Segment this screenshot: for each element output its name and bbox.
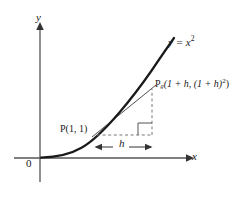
point-p-label: P(1, 1)	[60, 124, 87, 134]
curve-equation-label: y = x2	[168, 35, 195, 48]
point-q-args-a: (1 + h, (1 + h)	[164, 78, 223, 89]
figure-canvas: y x 0 y = x2 P(1, 1) Pg(1 + h, (1 + h)2)…	[0, 0, 237, 203]
curve-equation-text: y = x	[168, 36, 191, 48]
secant-line	[92, 85, 156, 137]
point-q-args-b: )	[226, 78, 229, 89]
diagram-svg	[0, 0, 237, 203]
y-axis-arrowhead	[36, 22, 44, 30]
point-q-label: Pg(1 + h, (1 + h)2)	[155, 78, 229, 90]
parabola-curve	[41, 38, 174, 158]
delta-h-label: h	[119, 138, 125, 149]
origin-label: 0	[26, 158, 32, 169]
y-axis-label: y	[36, 12, 41, 23]
h-arrowhead-right	[145, 144, 153, 150]
x-axis-label: x	[192, 151, 197, 162]
curve-equation-exponent: 2	[191, 34, 195, 43]
h-arrowhead-left	[95, 144, 103, 150]
right-angle-marker	[138, 123, 152, 135]
